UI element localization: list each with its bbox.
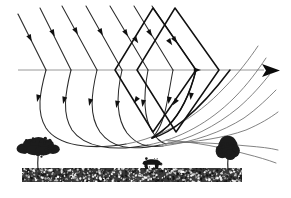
ground-speck xyxy=(86,172,87,173)
ground-speck xyxy=(133,179,134,180)
ground-speck xyxy=(82,173,84,175)
ground-speck xyxy=(177,180,179,182)
ground-speck xyxy=(27,171,28,172)
ground-speck xyxy=(196,176,197,177)
cow-speck xyxy=(145,157,148,160)
ground-speck xyxy=(106,178,107,179)
ground-speck xyxy=(230,176,232,178)
ground-speck xyxy=(126,172,127,173)
ground-speck xyxy=(109,176,110,177)
ground-speck xyxy=(132,181,133,182)
ground-speck xyxy=(208,170,210,172)
ground-speck xyxy=(206,174,208,176)
ground-speck xyxy=(149,171,151,173)
ground-speck xyxy=(97,173,99,175)
ground-speck xyxy=(178,171,180,173)
ground-speck xyxy=(54,181,55,182)
ground-speck xyxy=(45,176,46,177)
ground-speck xyxy=(191,174,192,175)
round-tree-right-leaf-speck xyxy=(233,148,236,151)
ground-speck xyxy=(96,168,98,170)
ground-speck xyxy=(25,171,26,172)
ground-speck xyxy=(97,175,98,176)
ground-speck xyxy=(195,170,197,172)
ground-speck xyxy=(176,175,177,176)
round-tree-right-leaf-speck xyxy=(233,144,235,146)
ground-speck xyxy=(232,168,234,170)
ground-speck xyxy=(84,173,86,175)
ground-speck xyxy=(205,168,207,170)
ground-speck xyxy=(146,174,147,175)
ground-speck xyxy=(82,177,84,179)
cow-speck xyxy=(143,161,146,164)
ground-speck xyxy=(126,174,127,175)
ground-speck xyxy=(133,176,135,178)
ground-speck xyxy=(176,168,177,169)
ground-speck xyxy=(171,178,173,180)
ground-speck xyxy=(101,169,102,170)
ground-speck xyxy=(216,175,217,176)
ground-speck xyxy=(199,171,201,173)
ground-speck xyxy=(200,168,202,170)
ground-speck xyxy=(92,175,94,177)
ground-speck xyxy=(99,173,101,175)
palm-tree-left-leaf-speck xyxy=(32,139,36,143)
ground-speck xyxy=(86,169,87,170)
ground-speck xyxy=(32,179,33,180)
ground-speck xyxy=(185,176,187,178)
ground-speck xyxy=(119,171,121,173)
ground-speck xyxy=(190,175,192,177)
palm-tree-left-leaf-speck xyxy=(51,149,52,150)
ground-speck xyxy=(123,179,125,181)
ground-speck xyxy=(204,175,205,176)
ground-speck xyxy=(117,170,118,171)
ground-speck xyxy=(129,171,130,172)
ground-speck xyxy=(103,177,105,179)
ground-speck xyxy=(59,169,61,171)
ground-speck xyxy=(59,180,60,181)
ground-speck xyxy=(22,174,23,175)
ground-speck xyxy=(160,169,161,170)
ground-speck xyxy=(77,169,79,171)
ground-speck xyxy=(225,180,227,182)
ground-speck xyxy=(107,172,108,173)
cow-speck xyxy=(157,164,158,165)
round-tree-right-leaf-speck xyxy=(222,151,224,153)
ground-speck xyxy=(69,169,71,171)
ground-speck xyxy=(151,171,153,173)
ground-speck xyxy=(234,169,236,171)
ground-speck xyxy=(176,178,177,179)
ground-speck xyxy=(55,174,57,176)
ground-speck xyxy=(91,173,92,174)
ground-speck xyxy=(72,175,74,177)
ground-speck xyxy=(223,176,224,177)
ground-speck xyxy=(180,177,182,179)
ground-speck xyxy=(227,179,228,180)
ground-speck xyxy=(74,174,77,177)
ground-speck xyxy=(176,173,178,175)
ground-speck xyxy=(184,179,186,181)
ground-speck xyxy=(114,176,115,177)
ground-speck xyxy=(47,174,48,175)
ground-speck xyxy=(61,170,63,172)
ground-speck xyxy=(188,177,189,178)
ground-speck xyxy=(212,172,214,174)
ground-speck xyxy=(166,174,167,175)
ground-speck xyxy=(68,178,69,179)
ground-speck xyxy=(122,181,123,182)
ground-speck xyxy=(168,179,169,180)
ground-speck xyxy=(239,179,241,181)
ground-speck xyxy=(216,177,219,180)
ground-speck xyxy=(84,180,86,182)
ground-speck xyxy=(111,173,113,175)
ground-speck xyxy=(213,179,214,180)
cow-speck xyxy=(148,160,150,162)
palm-tree-left-leaf-speck xyxy=(24,151,27,154)
ground-speck xyxy=(146,172,147,173)
palm-tree-left-leaf-speck xyxy=(44,137,47,140)
ground-speck xyxy=(218,176,219,177)
ground-speck xyxy=(66,176,67,177)
ground-speck xyxy=(45,169,47,171)
ground-speck xyxy=(229,178,231,180)
ground-speck xyxy=(238,173,240,175)
